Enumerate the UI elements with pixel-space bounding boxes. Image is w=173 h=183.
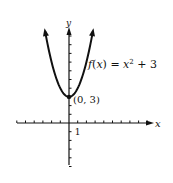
curve-arrow-right: [89, 28, 95, 36]
x-axis-arrow: [146, 121, 154, 126]
y-axis-arrow: [67, 27, 72, 35]
vertex-point: [67, 95, 71, 99]
vertex-label: (0, 3): [73, 94, 100, 105]
function-graph: x y 1 (0, 3) f(x) = x2 + 3: [0, 0, 173, 183]
y-axis-label: y: [65, 18, 72, 28]
x-tick-label: 1: [75, 127, 81, 137]
function-label: f(x) = x2 + 3: [87, 58, 157, 71]
x-axis-label: x: [155, 118, 161, 129]
curve-arrow-left: [43, 28, 49, 36]
